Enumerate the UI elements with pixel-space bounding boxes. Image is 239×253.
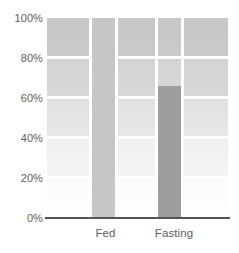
bar-chart: 100% 80% 60% 40% 20% 0% Fed Fasting (0, 0, 239, 253)
plot-area (47, 18, 228, 218)
y-tick-label-80: 80% (1, 53, 43, 64)
gridline-60 (47, 96, 228, 99)
y-axis: 100% 80% 60% 40% 20% 0% (0, 0, 43, 253)
x-axis-line (45, 217, 230, 219)
y-tick-label-20: 20% (1, 173, 43, 184)
y-tick-label-0: 0% (1, 213, 43, 224)
gridline-20 (47, 176, 228, 179)
gridline-80 (47, 56, 228, 59)
plot-background-gradient (47, 18, 228, 218)
bar-fasting[interactable] (158, 86, 181, 218)
y-tick-label-60: 60% (1, 93, 43, 104)
gridline-40 (47, 136, 228, 139)
x-tick-label-fasting: Fasting (140, 227, 208, 240)
column-separator-2 (115, 18, 118, 218)
y-tick-label-100: 100% (1, 13, 43, 24)
column-separator-4 (181, 18, 184, 218)
y-tick-label-40: 40% (1, 133, 43, 144)
x-tick-label-fed: Fed (78, 227, 133, 240)
bar-fed[interactable] (92, 18, 115, 218)
